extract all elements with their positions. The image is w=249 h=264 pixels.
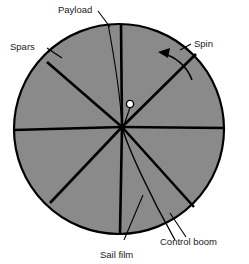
label-control-boom: Control boom [160, 236, 217, 247]
label-sail-film: Sail film [100, 249, 133, 260]
spar-right [122, 127, 224, 128]
label-payload: Payload [58, 4, 92, 15]
solar-sail-figure: Payload Spars Spin Sail film Control boo… [0, 0, 249, 264]
payload-dot [126, 100, 133, 107]
label-spars: Spars [10, 41, 35, 52]
label-spin: Spin [194, 38, 213, 49]
